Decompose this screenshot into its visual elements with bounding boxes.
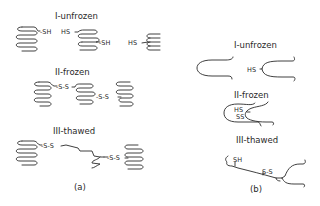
panel-a: I-unfrozen -SH HS -SH HS II-frozen -S-S [16,11,160,192]
disulfide-bond: S-S [262,168,273,176]
panel-b-caption: (b) [250,184,262,194]
protein-hairpin-b3 [224,102,274,126]
protein-coil-a6 [116,82,133,106]
protein-hairpin-b1 [197,57,233,79]
sh-group: SH [233,156,242,164]
panel-b: I-unfrozen HS II-frozen HS SS III-thawed… [197,40,305,194]
panel-b-label-frozen: II-frozen [234,90,269,100]
disulfide-bond: -S-S [107,154,120,162]
protein-coil-a7 [16,141,42,165]
protein-coil-a2 [75,30,100,50]
hs-group: HS [128,39,137,47]
protein-coil-a3 [142,34,160,50]
protein-coil-a1 [16,27,40,51]
disulfide-bond: -S-S [56,83,69,91]
sh-group: -SH [99,39,110,47]
panel-a-label-thawed: III-thawed [53,126,95,136]
sh-group: -SH [40,28,51,36]
hs-group: HS [61,28,70,36]
diagram-canvas: I-unfrozen -SH HS -SH HS II-frozen -S-S [0,0,320,206]
panel-b-label-unfrozen: I-unfrozen [234,40,277,50]
protein-coil-a8 [125,145,143,169]
disulfide-bond: SS [236,113,244,121]
panel-a-label-unfrozen: I-unfrozen [55,11,98,21]
protein-coil-a4 [34,82,57,106]
disulfide-bond: -S-S [96,93,109,101]
disulfide-bond: -S-S [41,142,54,150]
panel-b-label-thawed: III-thawed [236,135,278,145]
hs-group: HS [247,66,256,74]
panel-a-caption: (a) [74,182,86,192]
protein-hairpin-b2 [260,57,295,81]
protein-coil-a5 [72,84,95,104]
extended-chain [61,145,108,168]
panel-a-label-frozen: II-frozen [55,67,90,77]
